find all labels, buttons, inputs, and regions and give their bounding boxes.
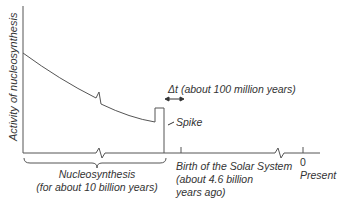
activity-curve bbox=[23, 53, 164, 153]
nucleosynthesis-label-line2: (for about 10 billion years) bbox=[36, 181, 157, 193]
spike-leader-line bbox=[168, 122, 174, 125]
birth-label-line3: years ago) bbox=[175, 186, 226, 198]
spike-label: Spike bbox=[176, 116, 202, 128]
nucleosynthesis-brace bbox=[24, 158, 166, 168]
present-tick-label: 0 bbox=[300, 156, 306, 168]
delta-t-label: Δt (about 100 million years) bbox=[167, 83, 296, 95]
delta-t-arrow bbox=[165, 97, 184, 101]
x-axis bbox=[23, 148, 320, 158]
y-axis-label: Activity of nucleosynthesis bbox=[7, 12, 19, 142]
birth-label-line2: (about 4.6 billion bbox=[176, 173, 253, 185]
birth-label-line1: Birth of the Solar System bbox=[176, 160, 292, 172]
nucleosynthesis-diagram: Activity of nucleosynthesis Δt (about 10… bbox=[0, 0, 338, 208]
nucleosynthesis-label-line1: Nucleosynthesis bbox=[59, 168, 136, 180]
present-label: Present bbox=[300, 169, 337, 181]
